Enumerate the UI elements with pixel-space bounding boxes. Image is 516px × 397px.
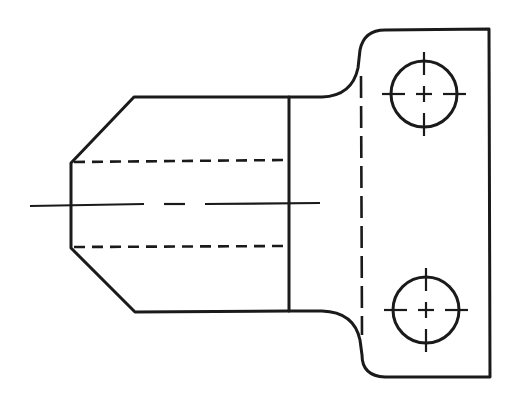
axis-centerline [30,203,320,206]
flange-hidden-line [361,76,362,335]
bore-hidden-line-upper [74,160,288,162]
lower-hole [384,268,468,352]
bore-hidden-line-lower [74,246,288,247]
upper-hole [382,52,466,136]
technical-drawing [0,0,516,397]
